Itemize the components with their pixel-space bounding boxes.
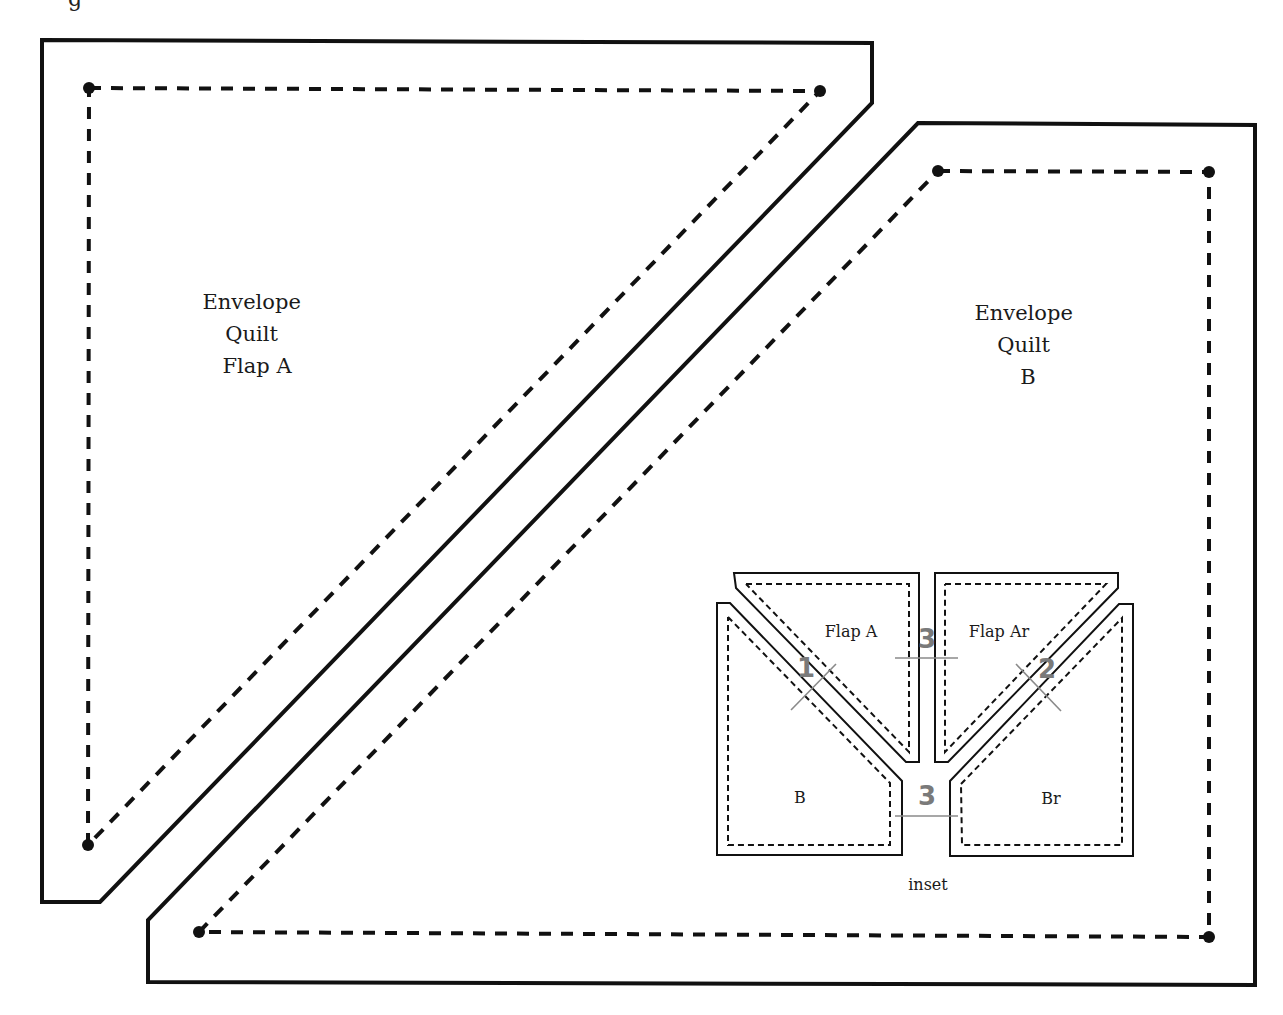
seam-number: 3: [918, 624, 936, 654]
inset-label: Br: [1041, 789, 1061, 808]
inset-caption: inset: [908, 875, 948, 894]
seam-number: 1: [797, 653, 815, 683]
seam-corner-dot: [1203, 931, 1215, 943]
seam-corner-dot: [83, 82, 95, 94]
quilt-template-diagram: Envelope Quilt Flap A Envelope Quilt B F…: [0, 0, 1283, 1015]
seam-number: 3: [918, 781, 936, 811]
seam-corner-dot: [932, 165, 944, 177]
seam-corner-dot: [1203, 166, 1215, 178]
seam-corner-dot: [193, 926, 205, 938]
seam-corner-dot: [82, 839, 94, 851]
seam-number: 2: [1038, 654, 1056, 684]
seam-corner-dot: [814, 85, 826, 97]
inset-label: B: [794, 788, 806, 807]
inset-label: Flap A: [825, 622, 878, 641]
inset-label: Flap Ar: [969, 622, 1030, 641]
